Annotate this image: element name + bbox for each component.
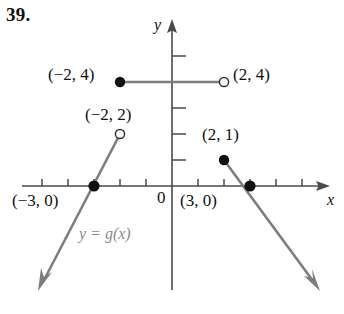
y-axis (167, 19, 177, 290)
curve-right-ray (224, 160, 320, 291)
point-label-neg2-4: (−2, 4) (48, 66, 94, 83)
point-marker-neg3-0 (88, 180, 99, 191)
point-marker-neg2-2 (115, 129, 124, 138)
point-marker-neg2-4 (115, 77, 125, 87)
curve-left-ray (38, 134, 120, 291)
point-label-neg3-0: (−3, 0) (12, 192, 58, 209)
figure-container: 39. (0, 0, 344, 314)
function-equation-label: y = g(x) (79, 226, 131, 242)
point-label-2-1: (2, 1) (202, 126, 239, 143)
point-marker-2-1 (219, 155, 229, 165)
point-label-2-4: (2, 4) (233, 66, 270, 83)
origin-label: 0 (157, 189, 166, 206)
point-marker-2-4 (219, 77, 228, 86)
point-label-3-0: (3, 0) (180, 192, 217, 209)
point-marker-3-0 (244, 180, 255, 191)
x-axis-label: x (327, 192, 334, 208)
point-label-neg2-2: (−2, 2) (85, 106, 131, 123)
y-axis-ticks (172, 56, 186, 160)
y-axis-label: y (154, 17, 161, 33)
graph-canvas (0, 0, 344, 314)
